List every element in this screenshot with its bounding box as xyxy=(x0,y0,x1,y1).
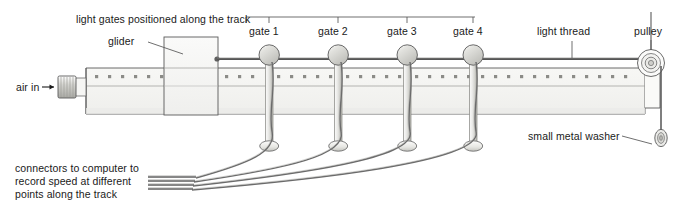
air-inlet-nozzle xyxy=(58,76,86,98)
physics-diagram: light gates positioned along the track g… xyxy=(0,0,685,209)
label-small-metal-washer: small metal washer xyxy=(528,130,620,143)
label-glider: glider xyxy=(108,35,134,48)
glider-block xyxy=(164,37,220,115)
light-thread xyxy=(217,58,641,59)
air-in-arrow-icon xyxy=(42,85,54,90)
cable-bundle-connector xyxy=(148,176,196,189)
label-light-thread: light thread xyxy=(537,25,590,38)
washer-leader-line xyxy=(622,136,652,144)
label-gate-2: gate 2 xyxy=(318,25,348,38)
label-gate-4: gate 4 xyxy=(453,25,483,38)
label-gate-3: gate 3 xyxy=(387,25,417,38)
label-air-in: air in xyxy=(16,81,39,94)
small-metal-washer xyxy=(655,129,667,146)
label-pulley: pulley xyxy=(634,25,662,38)
label-gate-1: gate 1 xyxy=(249,25,279,38)
label-light-gates: light gates positioned along the track xyxy=(76,13,250,26)
label-connectors-to-computer: connectors to computer to record speed a… xyxy=(15,162,139,201)
light-gates-bracket xyxy=(246,17,475,23)
